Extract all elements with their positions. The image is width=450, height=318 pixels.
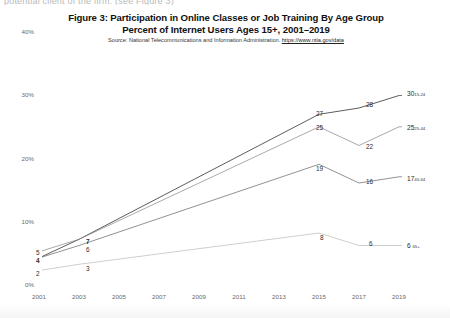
x-tick-2017: 2017: [344, 293, 374, 300]
point-value-label: 5: [36, 249, 40, 256]
point-value-label: 19: [316, 165, 323, 172]
y-tick-10: 10%: [12, 218, 34, 225]
x-tick-2003: 2003: [64, 293, 94, 300]
point-value-label: 25: [316, 124, 323, 131]
point-value-label: 16: [366, 178, 373, 185]
x-tick-2019: 2019: [384, 293, 414, 300]
series-end-group-25-44: 25-44: [414, 126, 425, 131]
y-tick-40: 40%: [12, 28, 34, 35]
series-line-25-44: [42, 127, 399, 252]
point-value-label: 22: [366, 143, 373, 150]
series-end-value-65plus: 6: [407, 242, 411, 249]
point-value-label: 6: [369, 240, 373, 247]
line-chart-svg: [42, 30, 402, 283]
series-end-group-65plus: 65+: [412, 244, 419, 249]
point-value-label: 27: [316, 110, 323, 117]
x-tick-2013: 2013: [264, 293, 294, 300]
series-end-group-15-24: 15-24: [414, 92, 425, 97]
y-tick-20: 20%: [12, 155, 34, 162]
page-edge-shadow: [0, 304, 450, 318]
x-tick-2001: 2001: [24, 293, 54, 300]
x-tick-2005: 2005: [104, 293, 134, 300]
x-tick-2011: 2011: [224, 293, 254, 300]
plot-area: [42, 30, 402, 283]
point-value-label: 3: [86, 265, 90, 272]
series-line-65+: [42, 233, 399, 271]
x-tick-2007: 2007: [144, 293, 174, 300]
series-end-label-15-24: 3015-24: [407, 90, 425, 97]
point-value-label: 28: [366, 101, 373, 108]
point-value-label: 6: [86, 246, 90, 253]
y-tick-0: 0%: [12, 281, 34, 288]
series-end-label-65plus: 6 65+: [407, 242, 420, 249]
clipped-body-text: potential client of the firm. (see Figur…: [4, 0, 174, 5]
series-end-group-45-64: 45-64: [414, 177, 425, 182]
series-line-45-64: [42, 164, 399, 258]
chart-page: potential client of the firm. (see Figur…: [0, 0, 450, 318]
series-end-label-25-44: 2525-44: [407, 124, 425, 131]
point-value-label: 4: [36, 257, 40, 264]
point-value-label: 2: [36, 270, 40, 277]
series-end-label-45-64: 1745-64: [407, 175, 425, 182]
x-tick-2015: 2015: [304, 293, 334, 300]
point-value-label: 8: [320, 234, 324, 241]
chart-title: Figure 3: Participation in Online Classe…: [48, 12, 404, 24]
y-tick-30: 30%: [12, 91, 34, 98]
point-value-label: 7: [86, 238, 90, 245]
x-tick-2009: 2009: [184, 293, 214, 300]
